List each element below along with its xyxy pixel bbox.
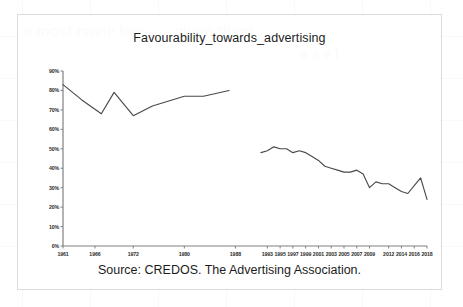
x-axis-tick-label: 1972 <box>120 251 146 257</box>
chart-card: Favourability_towards_advertising 0%10%2… <box>17 14 442 290</box>
y-axis-tick-label: 90% <box>37 68 59 74</box>
data-series-line <box>63 85 229 116</box>
x-axis-tick-label: 1966 <box>82 251 108 257</box>
source-note: Source: CREDOS. The Advertising Associat… <box>18 263 441 277</box>
line-chart-svg <box>45 67 431 252</box>
plot-area: 0%10%20%30%40%50%60%70%80%90%19611966197… <box>45 67 431 252</box>
y-axis-tick-label: 10% <box>37 224 59 230</box>
y-axis-tick-label: 80% <box>37 87 59 93</box>
y-axis-tick-label: 40% <box>37 165 59 171</box>
x-axis-tick-label: 2018 <box>414 251 440 257</box>
y-axis-tick-label: 50% <box>37 146 59 152</box>
y-axis-tick-label: 30% <box>37 185 59 191</box>
x-axis-tick-label: 1988 <box>222 251 248 257</box>
y-axis-tick-label: 70% <box>37 107 59 113</box>
data-series-line <box>261 147 427 200</box>
y-axis-tick-label: 60% <box>37 126 59 132</box>
x-axis-tick-label: 1961 <box>50 251 76 257</box>
y-axis-tick-label: 20% <box>37 204 59 210</box>
chart-title: Favourability_towards_advertising <box>18 31 441 45</box>
y-axis-tick-label: 0% <box>37 243 59 249</box>
x-axis-tick-label: 1980 <box>171 251 197 257</box>
